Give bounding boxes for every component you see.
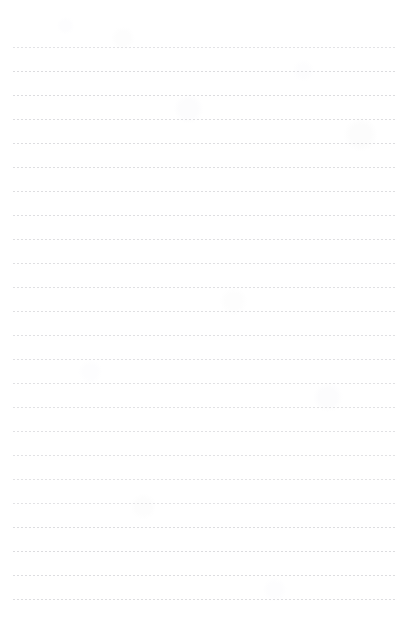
rule-line-stack — [0, 0, 410, 641]
rule-line — [13, 239, 396, 240]
rule-line — [13, 431, 396, 432]
rule-line — [13, 359, 396, 360]
rule-line — [13, 191, 396, 192]
rule-line — [13, 263, 396, 264]
rule-line — [13, 503, 396, 504]
rule-line — [13, 599, 396, 600]
rule-line — [13, 527, 396, 528]
rule-line — [13, 167, 396, 168]
rule-line — [13, 215, 396, 216]
rule-line — [13, 47, 396, 48]
rule-line — [13, 551, 396, 552]
rule-line — [13, 287, 396, 288]
rule-line — [13, 407, 396, 408]
rule-line — [13, 455, 396, 456]
rule-line — [13, 479, 396, 480]
rule-line — [13, 143, 396, 144]
rule-line — [13, 575, 396, 576]
rule-line — [13, 383, 396, 384]
rule-line — [13, 119, 396, 120]
rule-line — [13, 71, 396, 72]
rule-line — [13, 95, 396, 96]
lined-paper-sheet — [0, 0, 410, 641]
rule-line — [13, 311, 396, 312]
rule-line — [13, 335, 396, 336]
